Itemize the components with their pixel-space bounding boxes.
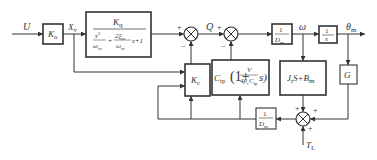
block-kc: Kc — [185, 64, 210, 96]
block-g: G — [340, 65, 357, 84]
block-inv-dm: 1 Dm — [272, 24, 292, 45]
svg-text:+: + — [177, 23, 182, 32]
block-servo-valve: Kq s2 ωsv + 2ξsv ωsv s+1 — [86, 12, 151, 57]
svg-text:+: + — [308, 124, 313, 133]
svg-text:V: V — [247, 66, 252, 74]
svg-text:G: G — [344, 70, 351, 80]
svg-text:s): s) — [259, 71, 267, 84]
svg-text:+: + — [295, 104, 300, 113]
svg-text:−: − — [221, 42, 226, 51]
block-inertia: JtS+Bm — [280, 61, 326, 95]
label-theta: θm — [346, 21, 357, 34]
block-inv-dm-feedback: 1 Dm — [256, 108, 276, 129]
svg-text:s: s — [325, 35, 328, 43]
svg-text:1: 1 — [325, 27, 329, 35]
svg-text:+: + — [313, 106, 318, 115]
block-ctp: Ctp (1+ V 4βeCtp s) — [212, 60, 269, 95]
svg-text:1: 1 — [279, 26, 283, 34]
summing-junction-1: + − — [177, 23, 198, 51]
svg-text:+: + — [217, 23, 222, 32]
svg-text:1: 1 — [263, 110, 267, 118]
block-ka: Ka — [43, 24, 63, 44]
svg-text:s+1: s+1 — [132, 37, 143, 45]
label-xv: Xv — [67, 22, 78, 34]
svg-text:+: + — [108, 37, 112, 45]
summing-junction-2: + − — [217, 23, 238, 51]
label-tl: TL — [306, 140, 315, 152]
label-u: U — [23, 21, 31, 32]
label-omega: ω — [299, 21, 306, 32]
block-integrator: 1 s — [319, 26, 337, 43]
label-q: Q — [206, 21, 214, 32]
block-diagram: U Ka Xv Kq s2 ωsv + 2ξsv ωsv s+1 + − Q — [0, 0, 377, 160]
svg-text:−: − — [181, 42, 186, 51]
